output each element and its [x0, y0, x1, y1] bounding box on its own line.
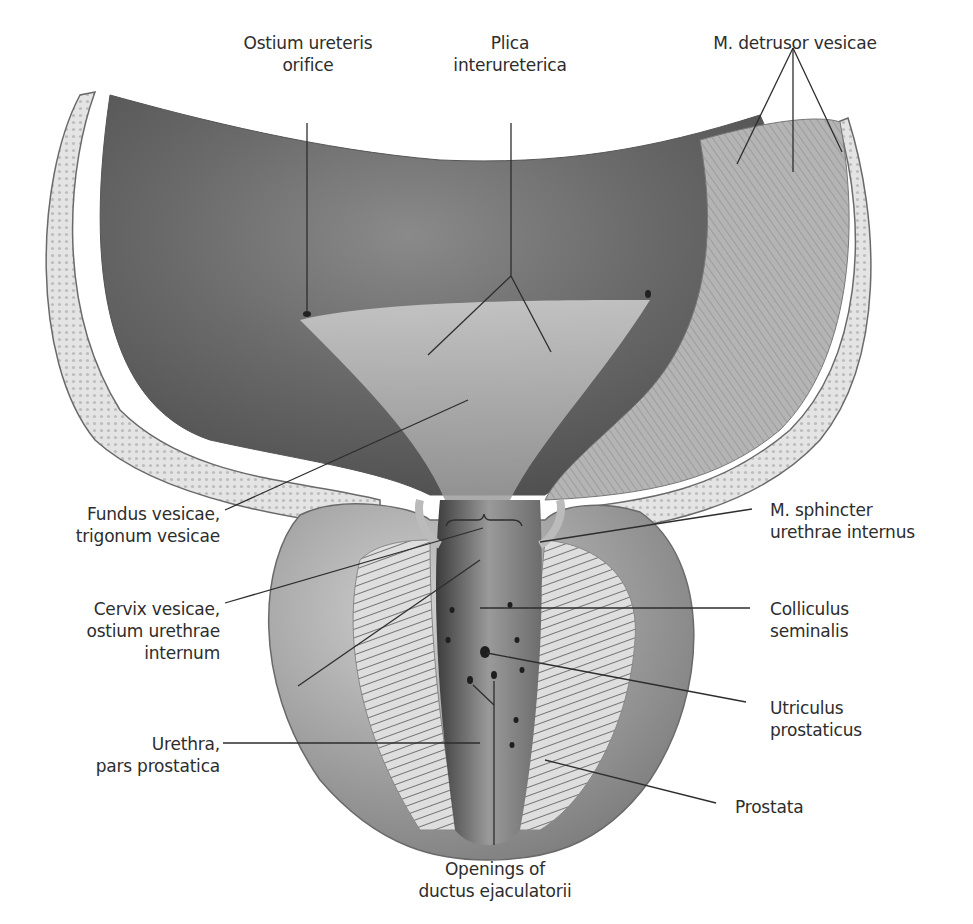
label-urethra: Urethra, pars prostatica — [40, 733, 220, 777]
label-plica-interureterica: Plica interureterica — [440, 32, 580, 76]
label-fundus-vesicae: Fundus vesicae, trigonum vesicae — [40, 503, 220, 547]
label-cervix-vesicae: Cervix vesicae, ostium urethrae internum — [40, 598, 220, 664]
label-prostata: Prostata — [735, 796, 885, 818]
label-ostium-ureteris: Ostium ureteris orifice — [238, 32, 378, 76]
label-detrusor: M. detrusor vesicae — [700, 32, 890, 54]
label-openings-ductus: Openings of ductus ejaculatorii — [390, 858, 600, 902]
label-sphincter: M. sphincter urethrae internus — [770, 499, 960, 543]
prostatic-urethra — [436, 500, 542, 845]
ureteric-orifice-right — [645, 290, 651, 298]
label-utriculus: Utriculus prostaticus — [770, 697, 960, 741]
label-colliculus: Colliculus seminalis — [770, 598, 960, 642]
anatomy-illustration — [0, 0, 973, 924]
